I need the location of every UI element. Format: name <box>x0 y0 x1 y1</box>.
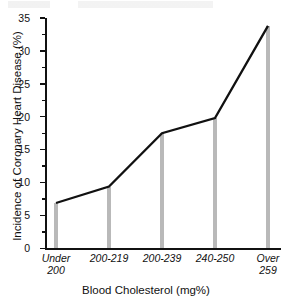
plot-area <box>45 18 281 250</box>
y-tick-label: 25 <box>18 79 30 90</box>
y-tick-label: 30 <box>18 46 30 57</box>
y-tick-label: 15 <box>18 144 30 155</box>
page-bleed-artifact <box>8 1 238 8</box>
x-tick-label: 240-250 <box>196 253 235 265</box>
y-axis-tick-labels: 05101520253035 <box>0 18 38 250</box>
x-tick-label: Under 200 <box>42 253 71 276</box>
y-tick-label: 5 <box>24 210 30 221</box>
x-axis-title: Blood Cholesterol (mg%) <box>0 284 292 296</box>
y-tick-label: 0 <box>24 243 30 254</box>
x-tick-label: 200-219 <box>90 253 129 265</box>
x-tick-label: 200-239 <box>143 253 182 265</box>
y-tick-label: 20 <box>18 112 30 123</box>
y-tick-label: 10 <box>18 177 30 188</box>
chart-figure: Incidence of Coronary Heart Disease (%) … <box>0 0 292 302</box>
series-line <box>45 18 281 250</box>
x-axis-tick-labels: Under 200200-219200-239240-250Over 259 <box>45 251 281 283</box>
x-tick-label: Over 259 <box>257 253 280 276</box>
y-tick-label: 35 <box>18 13 30 24</box>
